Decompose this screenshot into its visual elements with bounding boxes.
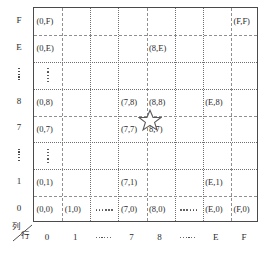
grid-vline	[90, 8, 91, 221]
grid-cell-label: (0,0)	[37, 205, 53, 214]
column-axis-ellipsis-icon	[174, 233, 202, 242]
grid-cell-label: (7,1)	[121, 178, 137, 187]
grid-vline	[62, 8, 63, 221]
grid-cell-label: (0,F)	[37, 17, 54, 26]
column-axis-label	[174, 233, 202, 242]
grid-cell-ellipsis	[92, 208, 116, 213]
grid-cell-label: (0,E)	[37, 44, 54, 53]
column-axis-label: 7	[117, 233, 145, 242]
grid-cell-label: (7,0)	[121, 205, 137, 214]
grid-cell-label: (1,0)	[65, 205, 81, 214]
grid-cell-label: (E,8)	[205, 98, 222, 107]
row-axis-label: 8	[8, 97, 30, 106]
grid-cell-label: (0,1)	[37, 178, 53, 187]
row-axis-ellipsis-icon	[8, 67, 30, 81]
grid-vline	[203, 8, 204, 221]
grid-cell-label: (E,0)	[205, 205, 222, 214]
row-axis-ellipsis-icon	[8, 148, 30, 162]
grid-hline	[34, 169, 257, 170]
row-axis-label: 7	[8, 123, 30, 132]
grid-cell-ellipsis	[45, 146, 51, 165]
corner-column-label: 列	[12, 222, 21, 231]
row-axis-label	[8, 67, 30, 81]
row-axis-label	[8, 148, 30, 162]
star-marker-icon	[138, 109, 162, 132]
grid-hline	[34, 35, 257, 36]
column-axis-label: 8	[146, 233, 174, 242]
grid-hline	[34, 196, 257, 197]
grid-cell-label: (F,0)	[233, 205, 249, 214]
grid-cell-label: (0,8)	[37, 98, 53, 107]
grid-hline	[34, 142, 257, 143]
grid-vline	[118, 8, 119, 221]
grid-cell-label: (8,E)	[149, 44, 166, 53]
grid-cell-label: (E,1)	[205, 178, 222, 187]
grid-cell-label: (7,8)	[121, 98, 137, 107]
grid-hline	[34, 89, 257, 90]
grid-cell-label: (7,7)	[121, 125, 137, 134]
grid-cell-label: (8,8)	[149, 98, 165, 107]
row-axis-label: 0	[8, 204, 30, 213]
column-axis-ellipsis-icon	[89, 233, 117, 242]
column-axis-label: 1	[61, 233, 89, 242]
grid-vline	[231, 8, 232, 221]
grid-hline	[34, 62, 257, 63]
axis-corner-caption: 列 行	[12, 222, 38, 246]
grid-vline	[175, 8, 176, 221]
grid-cell-ellipsis	[177, 208, 201, 213]
column-axis-label: F	[230, 233, 258, 242]
grid-cell-label: (0,7)	[37, 125, 53, 134]
column-axis-label	[89, 233, 117, 242]
column-axis-label: E	[202, 233, 230, 242]
row-axis-label: F	[8, 16, 30, 25]
grid-cell-ellipsis	[45, 66, 51, 85]
figure-canvas: (0,F)(F,F)(0,E)(8,E)(0,8)(7,8)(8,8)(E,8)…	[0, 0, 265, 265]
row-axis-label: 1	[8, 177, 30, 186]
corner-row-label: 行	[21, 231, 30, 240]
grid-cell-label: (F,F)	[233, 17, 250, 26]
grid-cell-label: (8,0)	[149, 205, 165, 214]
row-axis-label: E	[8, 43, 30, 52]
